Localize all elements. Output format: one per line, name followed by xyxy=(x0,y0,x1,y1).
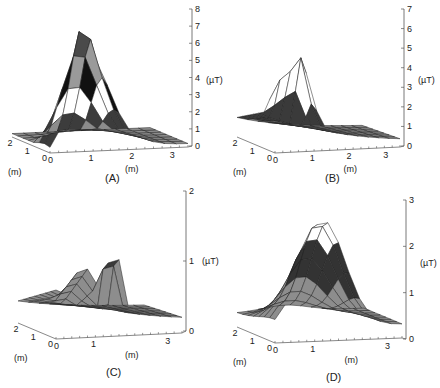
z-tick-label: 5 xyxy=(195,55,200,65)
axes: 01234567(µT)0123(m)012(m) xyxy=(232,4,434,177)
surface-mesh xyxy=(237,58,400,139)
z-tick-label: 0 xyxy=(407,141,412,151)
x-tick-label: 2 xyxy=(347,151,352,161)
y-tick-label: 0 xyxy=(42,153,47,163)
y-tick-label: 1 xyxy=(25,146,30,156)
x-tick-label: 3 xyxy=(170,150,175,160)
x-tick-label: 0 xyxy=(273,155,278,165)
x-tick-label: 1 xyxy=(310,153,315,163)
y-axis-unit-label: (m) xyxy=(8,167,22,177)
z-tick-label: 3 xyxy=(195,90,200,100)
surface-mesh xyxy=(18,260,182,318)
z-tick-label: 7 xyxy=(407,4,412,14)
y-tick-label: 2 xyxy=(13,324,18,334)
z-tick-label: 3 xyxy=(409,195,414,205)
x-tick-label: 2 xyxy=(129,151,134,161)
panel-label: (B) xyxy=(325,172,340,184)
z-tick-label: 6 xyxy=(195,38,200,48)
x-tick-label: 0 xyxy=(54,341,59,351)
x-tick-label: 1 xyxy=(310,344,315,354)
z-tick-label: 2 xyxy=(189,186,194,196)
z-tick-label: 2 xyxy=(409,241,414,251)
x-tick-label: 0 xyxy=(273,345,278,355)
surface-plot-d: 0123(µT)013(m)012(m)(D) xyxy=(232,195,436,383)
x-tick-label: 3 xyxy=(383,150,388,160)
z-tick-label: 6 xyxy=(407,24,412,34)
z-tick-label: 1 xyxy=(409,288,414,298)
surface-mesh xyxy=(237,223,402,324)
z-tick-label: 7 xyxy=(195,21,200,31)
y-tick-label: 2 xyxy=(232,138,237,148)
z-tick-label: 2 xyxy=(195,107,200,117)
y-tick-label: 1 xyxy=(250,336,255,346)
x-axis-unit-label: (m) xyxy=(125,164,139,174)
figure-canvas: 012345678(µT)0123(m)012(m)(A)01234567(µT… xyxy=(0,0,440,388)
x-axis-unit-label: (m) xyxy=(344,164,358,174)
z-tick-label: 1 xyxy=(195,124,200,134)
y-tick-label: 0 xyxy=(267,153,272,163)
z-tick-label: 8 xyxy=(195,4,200,14)
surface-mesh xyxy=(12,32,188,148)
surface-plot-b: 01234567(µT)0123(m)012(m)(B) xyxy=(232,4,434,184)
z-tick-label: 0 xyxy=(195,141,200,151)
surface-plot-a: 012345678(µT)0123(m)012(m)(A) xyxy=(7,4,222,184)
surface-plot-c: 012(µT)013(m)012(m)(C) xyxy=(13,186,218,378)
x-tick-label: 3 xyxy=(165,336,170,346)
y-tick-label: 2 xyxy=(7,138,12,148)
z-tick-label: 0 xyxy=(409,334,414,344)
y-axis-unit-label: (m) xyxy=(233,357,247,367)
y-tick-label: 1 xyxy=(31,332,36,342)
x-tick-label: 1 xyxy=(89,153,94,163)
y-tick-label: 0 xyxy=(267,343,272,353)
z-axis-unit-label: (µT) xyxy=(418,75,435,85)
z-tick-label: 4 xyxy=(195,73,200,83)
x-tick-label: 1 xyxy=(91,339,96,349)
y-tick-label: 2 xyxy=(232,328,237,338)
panel-label: (D) xyxy=(326,371,341,383)
z-axis-unit-label: (µT) xyxy=(206,75,223,85)
z-tick-label: 0 xyxy=(189,326,194,336)
y-axis-unit-label: (m) xyxy=(14,353,28,363)
x-axis-unit-label: (m) xyxy=(345,355,359,365)
z-tick-label: 1 xyxy=(189,256,194,266)
y-tick-label: 0 xyxy=(48,339,53,349)
z-axis-unit-label: (µT) xyxy=(420,258,437,268)
z-tick-label: 5 xyxy=(407,43,412,53)
z-tick-label: 1 xyxy=(407,121,412,131)
x-axis-unit-label: (m) xyxy=(125,350,139,360)
z-axis-unit-label: (µT) xyxy=(202,256,219,266)
y-tick-label: 1 xyxy=(250,146,255,156)
x-tick-label: 3 xyxy=(385,341,390,351)
z-tick-label: 4 xyxy=(407,63,412,73)
panel-label: (A) xyxy=(105,172,120,184)
panel-label: (C) xyxy=(106,366,121,378)
x-tick-label: 0 xyxy=(48,155,53,165)
axes: 012345678(µT)0123(m)012(m) xyxy=(7,4,222,177)
z-tick-label: 3 xyxy=(407,82,412,92)
y-axis-unit-label: (m) xyxy=(233,167,247,177)
z-tick-label: 2 xyxy=(407,102,412,112)
